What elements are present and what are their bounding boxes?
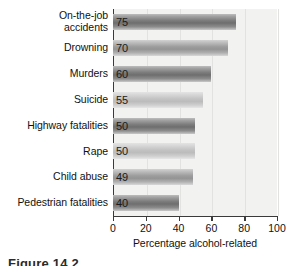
figure-container: On-the-jobaccidentsDrowningMurdersSuicid… — [0, 0, 291, 266]
category-label: Suicide — [0, 94, 108, 106]
bar-value-label: 50 — [116, 120, 128, 131]
x-axis-tick — [113, 216, 114, 221]
bar-value-label: 60 — [116, 68, 128, 79]
category-label-line: Murders — [0, 68, 108, 80]
category-axis-labels: On-the-jobaccidentsDrowningMurdersSuicid… — [0, 9, 108, 216]
x-axis-tick-label: 60 — [196, 222, 226, 234]
x-axis-line — [113, 216, 277, 217]
x-axis-tick — [211, 216, 212, 221]
bar-row: 60 — [113, 61, 277, 87]
bar-value-label: 70 — [116, 42, 128, 53]
bar-value-label: 75 — [116, 17, 128, 28]
figure-caption: Figure 14.2 — [8, 256, 79, 266]
bar: 50 — [113, 143, 195, 159]
bar-value-label: 40 — [116, 198, 128, 209]
bar-row: 75 — [113, 9, 277, 35]
x-axis-tick — [146, 216, 147, 221]
bar-row: 49 — [113, 164, 277, 190]
x-axis-tick-label: 100 — [262, 222, 291, 234]
bar: 70 — [113, 40, 228, 56]
x-axis-tick — [277, 216, 278, 221]
gridline — [278, 9, 279, 216]
bar-row: 55 — [113, 87, 277, 113]
category-label-line: Highway fatalities — [0, 120, 108, 132]
x-axis-tick — [244, 216, 245, 221]
category-label: Murders — [0, 68, 108, 80]
x-axis-tick-label: 20 — [131, 222, 161, 234]
category-label: Child abuse — [0, 171, 108, 183]
x-axis-tick — [179, 216, 180, 221]
x-axis-tick-label: 40 — [164, 222, 194, 234]
bar-value-label: 50 — [116, 146, 128, 157]
bar: 40 — [113, 195, 179, 211]
bar: 75 — [113, 14, 236, 30]
x-axis-tick-label: 80 — [229, 222, 259, 234]
bar: 50 — [113, 118, 195, 134]
category-label-line: Child abuse — [0, 171, 108, 183]
bar: 60 — [113, 66, 211, 82]
bar-row: 40 — [113, 190, 277, 216]
bar-row: 70 — [113, 35, 277, 61]
category-label-line: Rape — [0, 146, 108, 158]
bar-series: 7570605550504940 — [113, 9, 277, 216]
bar-row: 50 — [113, 113, 277, 139]
category-label-line: Pedestrian fatalities — [0, 197, 108, 209]
bar: 49 — [113, 169, 193, 185]
category-label-line: Suicide — [0, 94, 108, 106]
category-label: Pedestrian fatalities — [0, 197, 108, 209]
bar: 55 — [113, 92, 203, 108]
x-axis-tick-label: 0 — [98, 222, 128, 234]
category-label: On-the-jobaccidents — [0, 10, 108, 33]
x-axis-title: Percentage alcohol-related — [113, 237, 277, 249]
category-label: Rape — [0, 146, 108, 158]
category-label-line: Drowning — [0, 42, 108, 54]
bar-row: 50 — [113, 138, 277, 164]
bar-value-label: 55 — [116, 94, 128, 105]
category-label: Highway fatalities — [0, 120, 108, 132]
category-label-line: accidents — [0, 22, 108, 34]
bar-value-label: 49 — [116, 172, 128, 183]
category-label: Drowning — [0, 42, 108, 54]
